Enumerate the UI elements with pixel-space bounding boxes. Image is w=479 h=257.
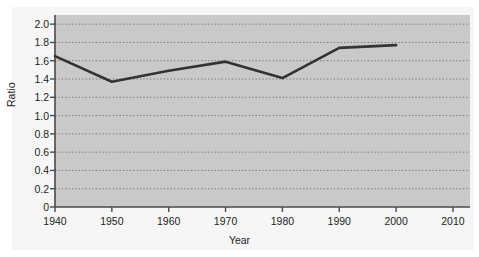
y-tick-label: 1.4 <box>18 74 49 85</box>
y-tick-label: 1.8 <box>18 37 49 48</box>
y-tick-label: 0.4 <box>18 165 49 176</box>
y-tick-label: 0.6 <box>18 147 49 158</box>
y-tick-label: 2.0 <box>18 19 49 30</box>
y-tick-label: 0.8 <box>18 129 49 140</box>
x-tick-label: 1960 <box>157 216 180 227</box>
gridlines <box>55 24 470 189</box>
x-tick-label: 1940 <box>43 216 66 227</box>
y-tick-label: 0 <box>18 202 49 213</box>
y-axis-label: Ratio <box>5 89 17 107</box>
y-tick-label: 0.2 <box>18 183 49 194</box>
x-tick-label: 1980 <box>271 216 294 227</box>
x-tick-label: 1990 <box>328 216 351 227</box>
x-tick-label: 1970 <box>214 216 237 227</box>
x-tick-label: 2010 <box>441 216 464 227</box>
y-tick-label: 1.0 <box>18 110 49 121</box>
chart-figure: 00.20.40.60.81.01.21.41.61.82.0 19401950… <box>0 0 479 257</box>
x-axis-label: Year <box>0 234 479 246</box>
x-tick-label: 1950 <box>100 216 123 227</box>
x-tick-label: 2000 <box>384 216 407 227</box>
data-series-line <box>55 45 396 82</box>
y-tick-label: 1.2 <box>18 92 49 103</box>
y-tick-label: 1.6 <box>18 55 49 66</box>
